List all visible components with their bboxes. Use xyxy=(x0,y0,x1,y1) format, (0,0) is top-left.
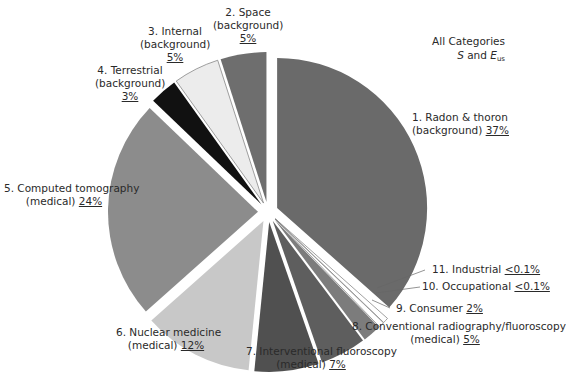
label-internal: 3. Internal (background) 5% xyxy=(140,25,210,64)
label-space: 2. Space (background) 5% xyxy=(213,6,283,45)
chart-subtitle: S and Eus xyxy=(432,48,505,66)
label-occupational: 10. Occupational <0.1% xyxy=(422,280,550,293)
label-radon: 1. Radon & thoron (background) 37% xyxy=(412,111,509,137)
chart-title-line1: All Categories xyxy=(432,34,505,48)
label-conventional: 8. Conventional radiography/fluoroscopy … xyxy=(352,320,538,346)
label-interventional: 7. Interventional fluoroscopy (medical) … xyxy=(246,345,376,371)
label-terrestrial: 4. Terrestrial (background) 3% xyxy=(95,64,165,103)
label-ct: 5. Computed tomography (medical) 24% xyxy=(4,182,124,208)
label-consumer: 9. Consumer 2% xyxy=(396,302,483,315)
label-nuclear: 6. Nuclear medicine (medical) 12% xyxy=(116,326,216,352)
chart-title: All Categories S and Eus xyxy=(432,34,505,66)
label-industrial: 11. Industrial <0.1% xyxy=(432,263,540,276)
